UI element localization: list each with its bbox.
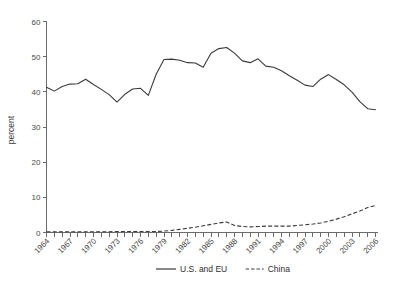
x-tick-label: 1991 (244, 236, 263, 255)
chart-page: 0102030405060 19641967197019731976197919… (0, 0, 399, 294)
series-line-u-s-and-eu (47, 48, 376, 110)
x-tick-label: 1994 (267, 236, 286, 255)
line-chart: 0102030405060 19641967197019731976197919… (0, 0, 399, 294)
y-tick-label: 50 (32, 53, 41, 62)
x-tick-label: 1982 (173, 236, 192, 255)
y-tick-label: 30 (32, 123, 41, 132)
x-axis: 1964196719701973197619791982198519881991… (32, 233, 380, 256)
series-line-china (47, 205, 376, 231)
legend-label-u-s-and-eu: U.S. and EU (180, 264, 227, 274)
y-tick-label: 60 (32, 18, 41, 27)
y-axis-title: percent (6, 115, 16, 144)
x-tick-label: 1973 (103, 236, 122, 255)
y-tick-label: 10 (32, 193, 41, 202)
x-tick-label: 1976 (126, 236, 145, 255)
y-tick-label: 40 (32, 88, 41, 97)
y-axis-label: percent (6, 115, 16, 144)
x-tick-label: 1985 (197, 236, 216, 255)
x-tick-label: 1979 (150, 236, 169, 255)
legend-label-china: China (268, 264, 290, 274)
x-tick-label: 1967 (56, 236, 75, 255)
x-tick-label: 2003 (338, 236, 357, 255)
x-tick-label: 1964 (32, 236, 51, 255)
x-tick-label: 2000 (314, 236, 333, 255)
x-tick-label: 1997 (291, 236, 310, 255)
chart-legend: U.S. and EUChina (156, 264, 290, 274)
x-tick-label: 1988 (220, 236, 239, 255)
x-tick-label: 1970 (79, 236, 98, 255)
y-tick-label: 0 (36, 229, 41, 238)
y-tick-label: 20 (32, 158, 41, 167)
series-group (47, 48, 376, 232)
y-axis: 0102030405060 (32, 18, 47, 238)
x-tick-label: 2006 (361, 236, 380, 255)
